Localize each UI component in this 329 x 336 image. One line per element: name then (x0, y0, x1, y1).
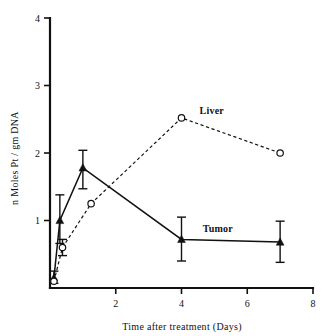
series-line (54, 168, 280, 278)
series-annotation: Tumor (203, 223, 233, 234)
series-tumor (49, 150, 284, 283)
y-axis-tick-labels: 1234 (35, 13, 40, 227)
series-annotations: LiverTumor (200, 105, 234, 234)
y-tick-label: 4 (35, 13, 40, 24)
data-series (49, 115, 284, 285)
x-tick-label: 4 (179, 298, 184, 309)
data-point-marker (88, 200, 94, 206)
x-tick-label: 2 (113, 298, 118, 309)
series-liver (51, 115, 284, 285)
x-tick-label: 8 (311, 298, 316, 309)
x-axis-tick-labels: 2468 (113, 298, 315, 309)
y-tick-label: 1 (35, 215, 40, 226)
axes: 1234 2468 (35, 13, 316, 310)
line-chart-svg: 1234 2468 LiverTumor Time after treatmen… (0, 0, 329, 336)
data-point-marker (59, 244, 65, 250)
data-point-marker (178, 115, 184, 121)
series-line (54, 118, 280, 281)
y-axis-title: n Moles Pt / gm DNA (9, 111, 20, 205)
chart-figure: 1234 2468 LiverTumor Time after treatmen… (0, 0, 329, 336)
x-axis-title: Time after treatment (Days) (122, 321, 242, 333)
y-tick-label: 3 (35, 80, 40, 91)
data-point-marker (277, 150, 283, 156)
y-tick-label: 2 (35, 148, 40, 159)
series-annotation: Liver (200, 105, 225, 116)
x-tick-label: 6 (245, 298, 250, 309)
data-point-marker (51, 278, 57, 284)
data-point-marker (79, 164, 87, 171)
data-point-marker (56, 216, 64, 223)
